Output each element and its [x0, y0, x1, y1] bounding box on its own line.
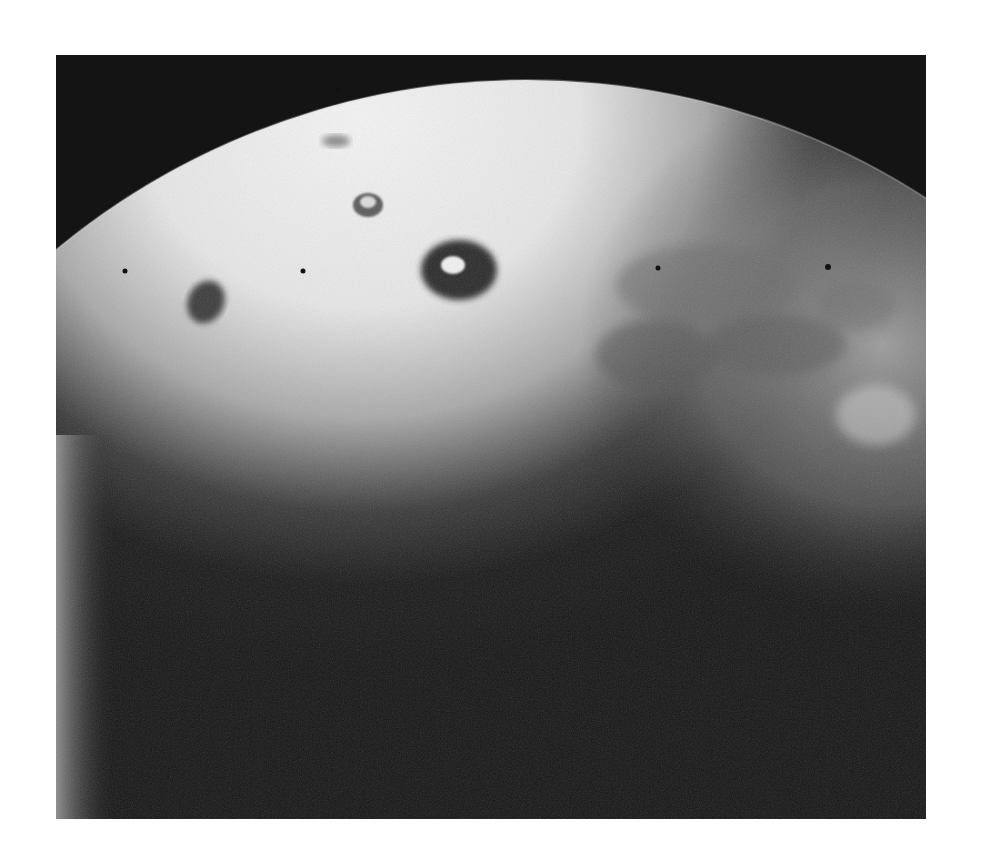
planet-illustration [56, 55, 926, 819]
space-photograph [56, 55, 926, 819]
planet-disk [56, 55, 926, 819]
